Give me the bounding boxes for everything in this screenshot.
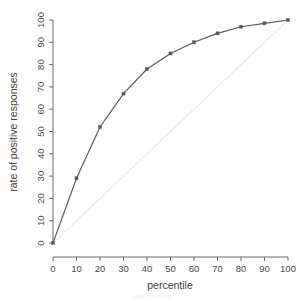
y-tick-label: 60 [35, 104, 46, 115]
x-tick-label: 100 [280, 263, 296, 274]
y-tick-label: 0 [35, 240, 46, 245]
x-tick-label: 70 [212, 263, 223, 274]
x-tick-label: 50 [165, 263, 176, 274]
data-point [216, 32, 219, 35]
y-axis-title: rate of positive responses [7, 72, 19, 192]
x-tick-label: 20 [95, 263, 106, 274]
caption-fragment: percentile [0, 292, 304, 301]
y-tick-label: 10 [35, 215, 46, 226]
y-axis: 0102030405060708090100 [35, 12, 53, 246]
chart-figure: 0102030405060708090100 01020304050607080… [0, 0, 304, 302]
x-tick-label: 10 [71, 263, 82, 274]
x-axis-ticks: 0102030405060708090100 [50, 257, 296, 274]
data-point [286, 18, 289, 21]
y-tick-label: 70 [35, 82, 46, 93]
y-tick-label: 40 [35, 149, 46, 160]
y-tick-label: 50 [35, 126, 46, 137]
y-tick-label: 20 [35, 193, 46, 204]
x-tick-label: 90 [259, 263, 270, 274]
x-axis: 0102030405060708090100 [50, 257, 296, 274]
x-tick-label: 40 [142, 263, 153, 274]
x-axis-title: percentile [147, 279, 193, 291]
data-point [263, 22, 266, 25]
x-tick-label: 30 [118, 263, 129, 274]
data-point [75, 177, 78, 180]
data-point [122, 92, 125, 95]
x-tick-label: 80 [236, 263, 247, 274]
data-point [239, 25, 242, 28]
data-point [98, 125, 101, 128]
y-tick-label: 100 [35, 12, 46, 28]
y-axis-ticks: 0102030405060708090100 [35, 12, 53, 246]
y-tick-label: 80 [35, 59, 46, 70]
data-point [169, 52, 172, 55]
x-tick-label: 0 [50, 263, 55, 274]
data-point [192, 41, 195, 44]
y-tick-label: 30 [35, 171, 46, 182]
x-tick-label: 60 [189, 263, 200, 274]
data-point [145, 68, 148, 71]
lift-curve-chart: 0102030405060708090100 01020304050607080… [0, 0, 304, 302]
y-tick-label: 90 [35, 37, 46, 48]
